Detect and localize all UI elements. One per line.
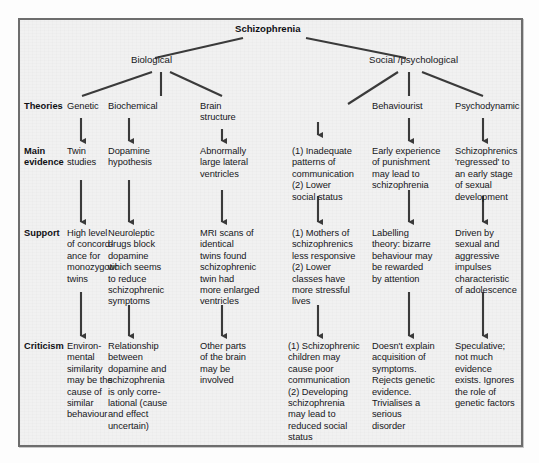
node-psychodynamic-theory: Psychodynamic	[455, 101, 535, 112]
node-communication-criticism: (1) Schizophrenic children may cause poo…	[288, 341, 372, 444]
node-communication-support: (1) Mothers of schizophrenics less respo…	[292, 228, 368, 308]
row-label-support: Support	[24, 228, 60, 239]
node-behaviourist-criticism: Doesn't explain acquisition of symptoms.…	[372, 341, 452, 432]
node-psychodynamic-criticism: Speculative; not much evidence exists. I…	[455, 341, 523, 409]
node-behaviourist-support: Labelling theory: bizarre behaviour may …	[372, 228, 450, 285]
node-brain-structure-theory: Brain structure	[200, 101, 262, 124]
row-label-criticism: Criticism	[24, 341, 64, 352]
node-brain-structure-criticism: Other parts of the brain may be involved	[200, 341, 264, 387]
node-biochemical-theory: Biochemical	[108, 101, 178, 112]
node-biochemical-support: Neuroleptic drugs block dopamine which s…	[108, 228, 174, 308]
node-biochemical-evidence: Dopamine hypothesis	[108, 146, 174, 169]
node-brain-structure-support: MRI scans of identical twins found schiz…	[200, 228, 268, 308]
node-behaviourist-evidence: Early experience of punishment may lead …	[372, 146, 450, 192]
node-biochemical-criticism: Relationship between dopamine and schizo…	[108, 341, 180, 432]
figure-canvas: Schizophrenia Biological Social /psychol…	[0, 0, 539, 463]
branch-node-social-psychological: Social /psychological	[369, 54, 458, 65]
branch-node-biological: Biological	[131, 54, 172, 65]
row-label-theories: Theories	[24, 101, 63, 112]
row-label-main-evidence: Main evidence	[24, 146, 64, 169]
node-genetic-theory: Genetic	[67, 101, 111, 112]
root-node-schizophrenia: Schizophrenia	[235, 23, 301, 34]
node-genetic-evidence: Twin studies	[67, 146, 113, 169]
node-communication-evidence: (1) Inadequate patterns of communication…	[292, 146, 368, 203]
node-brain-structure-evidence: Abnormally large lateral ventricles	[200, 146, 268, 180]
node-psychodynamic-evidence: Schizophrenics 'regressed' to an early s…	[455, 146, 525, 203]
node-behaviourist-theory: Behaviourist	[372, 101, 446, 112]
node-psychodynamic-support: Driven by sexual and aggressive impulses…	[455, 228, 523, 296]
